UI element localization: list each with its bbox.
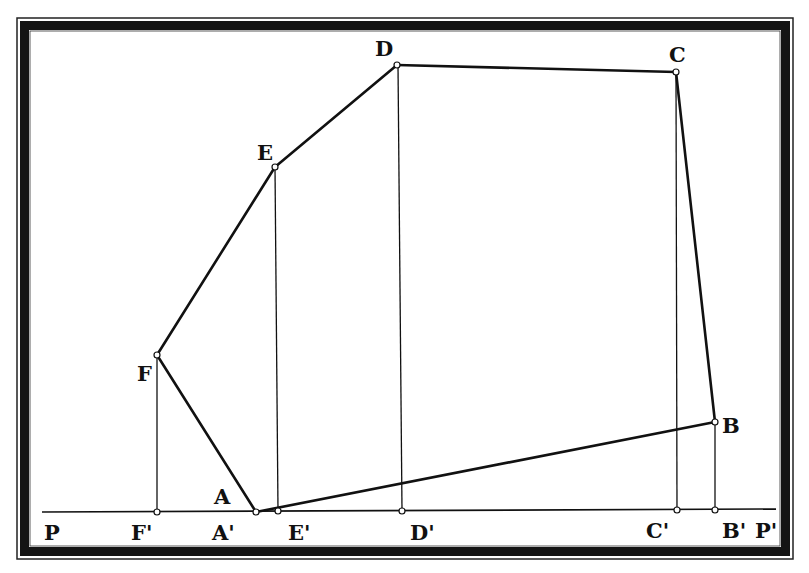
projection-line-e <box>275 167 278 511</box>
point-d[interactable] <box>394 62 400 68</box>
label-d: D <box>375 36 393 61</box>
edge-de <box>275 65 397 167</box>
label-d-prime: D' <box>410 520 435 545</box>
label-f-prime: F' <box>131 520 152 545</box>
baseline-pp <box>42 509 776 512</box>
point-b-prime[interactable] <box>712 507 718 513</box>
projection-line-c <box>676 72 677 510</box>
label-b-prime: B' <box>722 518 746 543</box>
point-f-prime[interactable] <box>154 509 160 515</box>
point-c[interactable] <box>673 69 679 75</box>
edge-bc <box>676 72 715 422</box>
point-b[interactable] <box>712 419 718 425</box>
point-f[interactable] <box>154 352 160 358</box>
label-f: F <box>137 361 152 386</box>
point-e-prime[interactable] <box>275 508 281 514</box>
label-p-prime: P' <box>755 518 777 543</box>
point-a[interactable] <box>253 509 259 515</box>
baseline-labels: P F' A' E' D' C' B' P' <box>44 518 777 545</box>
label-e-prime: E' <box>288 520 310 545</box>
label-p: P <box>44 520 60 545</box>
edge-fa <box>157 355 256 512</box>
label-a-prime: A' <box>211 520 235 545</box>
label-c-prime: C' <box>646 518 669 543</box>
edge-cd <box>397 65 676 72</box>
label-b: B <box>722 413 740 438</box>
edge-ef <box>157 167 275 355</box>
vertex-markers <box>154 62 718 515</box>
label-c: C <box>669 42 686 67</box>
projection-line-d <box>398 65 402 511</box>
vertex-labels: D C E F B A <box>137 36 740 509</box>
projection-lines <box>157 65 715 512</box>
projection-diagram: D C E F B A P F' A' E' D' C' B' P' <box>0 0 809 573</box>
label-a: A <box>213 484 231 509</box>
point-c-prime[interactable] <box>674 507 680 513</box>
polygon-abcdef <box>157 65 715 512</box>
label-e: E <box>257 140 273 165</box>
point-d-prime[interactable] <box>399 508 405 514</box>
edge-ab <box>256 422 715 512</box>
